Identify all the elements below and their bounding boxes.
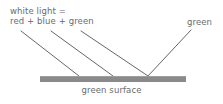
reflected-rays [148, 30, 191, 76]
reflected-ray-green [148, 30, 191, 76]
incident-rays [21, 31, 148, 76]
light-reflection-diagram: white light =red + blue + green green gr… [0, 0, 223, 104]
incident-ray-2 [51, 31, 113, 76]
reflected-light-label: green [187, 17, 212, 27]
green-surface-bar [40, 76, 186, 82]
incident-light-label-line2: red + blue + green [10, 16, 94, 26]
incident-light-label: white light =red + blue + green [10, 6, 94, 26]
surface-caption: green surface [0, 85, 223, 95]
incident-light-label-line1: white light = [10, 6, 66, 16]
incident-ray-1 [21, 31, 79, 76]
incident-ray-3 [81, 31, 148, 76]
